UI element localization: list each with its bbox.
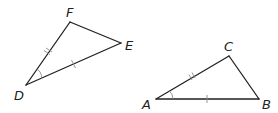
angle-arc-a — [170, 91, 174, 99]
triangle-def: F E D — [14, 5, 134, 103]
congruence-diagram: F E D C A B — [0, 0, 278, 113]
side-ac — [156, 56, 229, 99]
vertex-label-c: C — [224, 39, 234, 54]
vertex-label-e: E — [125, 38, 134, 53]
side-cb — [229, 56, 259, 99]
side-fe — [70, 22, 121, 43]
angle-arc-d — [37, 70, 42, 79]
vertex-label-a: A — [141, 97, 151, 112]
vertex-label-d: D — [14, 88, 24, 103]
vertex-label-f: F — [66, 5, 74, 20]
triangle-abc: C A B — [141, 39, 271, 112]
vertex-label-b: B — [262, 97, 271, 112]
